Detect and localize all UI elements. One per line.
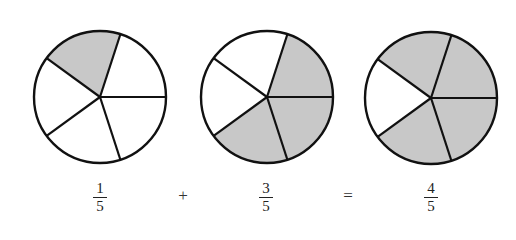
divider-spoke xyxy=(100,97,120,160)
plus-sign: + xyxy=(173,186,193,206)
equals-sign: = xyxy=(338,186,358,206)
numerator: 3 xyxy=(256,182,276,195)
pie-circle-one-fifth xyxy=(34,31,166,163)
divider-spoke xyxy=(47,97,100,136)
numerator: 4 xyxy=(421,182,441,195)
fraction-four-fifths: 4 5 xyxy=(421,182,441,213)
fraction-one-fifth: 1 5 xyxy=(90,182,110,213)
pie-circle-three-fifths xyxy=(201,31,333,163)
pie-circle-four-fifths xyxy=(365,32,497,164)
shaded-sector xyxy=(47,31,121,97)
divider-spoke xyxy=(214,58,267,97)
denominator: 5 xyxy=(90,200,110,213)
denominator: 5 xyxy=(421,200,441,213)
denominator: 5 xyxy=(256,200,276,213)
numerator: 1 xyxy=(90,182,110,195)
fraction-three-fifths: 3 5 xyxy=(256,182,276,213)
